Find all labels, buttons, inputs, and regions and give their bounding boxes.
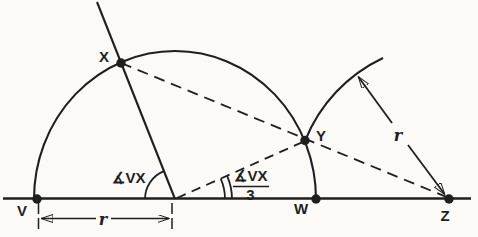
angle-vx-label: ∡VX — [112, 169, 145, 186]
point-dot-y — [300, 136, 309, 145]
angle-vx-arc — [145, 171, 164, 199]
point-label-y: Y — [316, 127, 326, 144]
trisection-figure: X V Y W Z ∡VX ∡VX 3 r r — [0, 0, 478, 237]
radius-dimension-label: r — [99, 210, 109, 229]
point-dot-w — [311, 194, 320, 203]
fraction-numerator-label: ∡VX — [234, 167, 267, 184]
fraction-denominator-label: 3 — [246, 186, 254, 203]
point-label-v: V — [17, 202, 27, 219]
trisection-diagram-svg: X V Y W Z ∡VX ∡VX 3 r r — [0, 0, 478, 237]
point-dot-x — [116, 58, 125, 67]
point-label-z: Z — [440, 207, 449, 224]
radius-arrow-upper — [359, 77, 393, 123]
point-dot-z — [444, 194, 453, 203]
point-dot-v — [32, 194, 41, 203]
angle-vx-over-3-arc-inner — [221, 179, 225, 199]
point-label-w: W — [294, 200, 309, 217]
radius-from-z-label: r — [394, 126, 404, 145]
radius-arrow-lower — [408, 145, 445, 194]
angle-vx-over-3-arc-outer — [227, 176, 232, 199]
point-label-x: X — [99, 48, 109, 65]
